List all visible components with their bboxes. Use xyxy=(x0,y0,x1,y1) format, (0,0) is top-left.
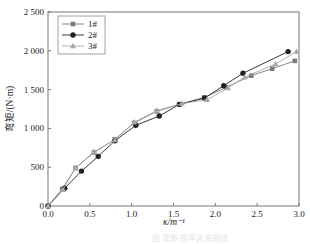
y-tick-label: 2 000 xyxy=(24,46,45,56)
y-tick-label: 2 500 xyxy=(24,7,45,17)
x-tick-label: 2.5 xyxy=(252,209,264,219)
x-tick-label: 1.0 xyxy=(126,209,138,219)
y-axis-ticks: 05001 0001 5002 0002 500 xyxy=(24,7,51,211)
x-tick-label: 3.0 xyxy=(293,209,305,219)
y-tick-label: 1 500 xyxy=(24,85,45,95)
y-tick-label: 500 xyxy=(31,162,45,172)
chart: 05001 0001 5002 0002 500 0.00.51.01.52.0… xyxy=(0,0,310,244)
y-tick-label: 1 000 xyxy=(24,123,45,133)
svg-text:3#: 3# xyxy=(88,41,98,51)
series-1 xyxy=(46,59,297,209)
svg-text:2#: 2# xyxy=(88,30,98,40)
legend: 1#2#3# xyxy=(58,16,105,54)
x-axis-title: κ/m⁻¹ xyxy=(163,217,185,227)
series-layer xyxy=(45,48,299,208)
x-tick-label: 0.0 xyxy=(42,209,54,219)
y-axis-title: 弯矩/(N·m) xyxy=(4,86,16,132)
figure-caption: 图 弯矩-曲率关系曲线 xyxy=(152,233,229,243)
x-tick-label: 0.5 xyxy=(84,209,96,219)
x-tick-label: 2.0 xyxy=(210,209,222,219)
svg-text:1#: 1# xyxy=(88,19,98,29)
